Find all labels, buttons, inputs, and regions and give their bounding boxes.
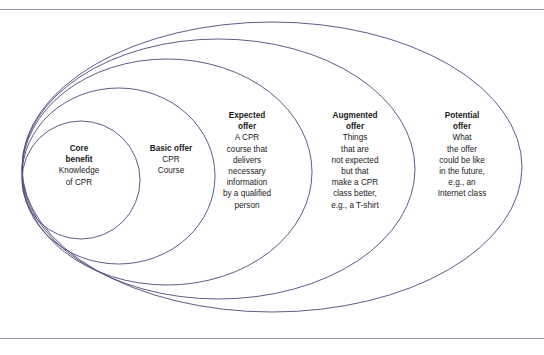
potential-offer-title-line1: Potential — [424, 110, 500, 121]
potential-offer-body-line3: could be like — [424, 155, 500, 166]
potential-offer-body-line2: the offer — [424, 144, 500, 155]
augmented-offer-body-line6: class better, — [318, 188, 392, 199]
potential-offer-body-line1: What — [424, 132, 500, 143]
potential-offer-title-line2: offer — [424, 121, 500, 132]
basic-offer-title-line1: Basic offer — [140, 143, 202, 154]
augmented-offer-body-line2: that are — [318, 144, 392, 155]
expected-offer-body-line2: course that — [212, 144, 282, 155]
core-benefit-body-line2: of CPR — [46, 177, 112, 188]
label-augmented-offer: Augmented offer Things that are not expe… — [318, 110, 392, 211]
basic-offer-body-line1: CPR — [140, 154, 202, 165]
augmented-offer-body-line7: e.g., a T-shirt — [318, 200, 392, 211]
expected-offer-title-line1: Expected — [212, 110, 282, 121]
label-core-benefit: Core benefit Knowledge of CPR — [46, 143, 112, 188]
core-benefit-title-line2: benefit — [46, 154, 112, 165]
expected-offer-body-line4: necessary — [212, 166, 282, 177]
potential-offer-body-line4: in the future, — [424, 166, 500, 177]
label-potential-offer: Potential offer What the offer could be … — [424, 110, 500, 200]
core-benefit-body-line1: Knowledge — [46, 165, 112, 176]
augmented-offer-body-line4: but that — [318, 166, 392, 177]
expected-offer-body-line6: by a qualified — [212, 188, 282, 199]
expected-offer-title-line2: offer — [212, 121, 282, 132]
expected-offer-body-line1: A CPR — [212, 132, 282, 143]
augmented-offer-title-line2: offer — [318, 121, 392, 132]
expected-offer-body-line5: information — [212, 177, 282, 188]
augmented-offer-body-line5: make a CPR — [318, 177, 392, 188]
potential-offer-body-line6: Internet class — [424, 188, 500, 199]
expected-offer-body-line7: person — [212, 200, 282, 211]
core-benefit-title-line1: Core — [46, 143, 112, 154]
label-expected-offer: Expected offer A CPR course that deliver… — [212, 110, 282, 211]
augmented-offer-body-line1: Things — [318, 132, 392, 143]
augmented-offer-body-line3: not expected — [318, 155, 392, 166]
basic-offer-body-line2: Course — [140, 165, 202, 176]
potential-offer-body-line5: e.g., an — [424, 177, 500, 188]
label-basic-offer: Basic offer CPR Course — [140, 143, 202, 177]
augmented-offer-title-line1: Augmented — [318, 110, 392, 121]
expected-offer-body-line3: delivers — [212, 155, 282, 166]
